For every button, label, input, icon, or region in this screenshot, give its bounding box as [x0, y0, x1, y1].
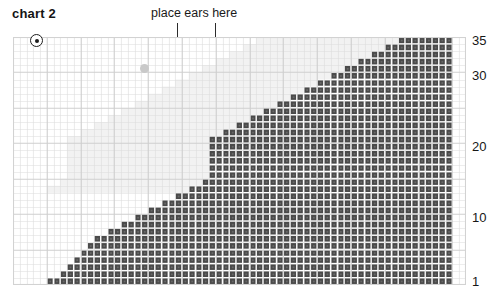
chart-grid-canvas	[13, 37, 466, 285]
row-number-label: 10	[472, 211, 486, 224]
chart-root: chart 2 place ears here 353020101	[0, 0, 502, 308]
row-number-label: 1	[472, 275, 479, 288]
row-number-axis: 353020101	[472, 37, 502, 285]
row-number-label: 35	[472, 34, 486, 47]
chart-grid	[13, 37, 466, 285]
row-number-label: 20	[472, 140, 486, 153]
page-title: chart 2	[12, 6, 56, 21]
place-ears-annotation-label: place ears here	[151, 6, 237, 20]
row-number-label: 30	[472, 69, 486, 82]
